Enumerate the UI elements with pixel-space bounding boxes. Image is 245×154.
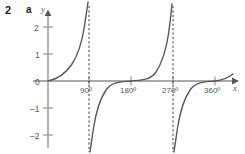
x-tick-label-180: 180º xyxy=(120,86,136,95)
y-axis-label: y xyxy=(40,4,45,14)
y-tick-label-2: 2 xyxy=(34,23,39,33)
x-tick-label-270: 270º xyxy=(162,86,178,95)
y-tick-label-neg2: –2 xyxy=(30,131,40,141)
x-tick-label-90: 90º xyxy=(80,86,92,95)
y-tick-label-neg1: –1 xyxy=(30,104,40,114)
x-axis-label: x xyxy=(232,83,237,93)
curve-branch-1 xyxy=(48,2,88,81)
figure-container: 2 a y x 2 1 0 –1 –2 90º 180º xyxy=(0,0,245,154)
tangent-graph: y x 2 1 0 –1 –2 90º 180º 270º 360º xyxy=(0,0,245,154)
x-tick-label-360: 360º xyxy=(204,86,220,95)
y-axis-arrowhead xyxy=(45,10,52,17)
y-tick-label-0: 0 xyxy=(35,77,40,87)
y-tick-label-1: 1 xyxy=(35,50,40,60)
